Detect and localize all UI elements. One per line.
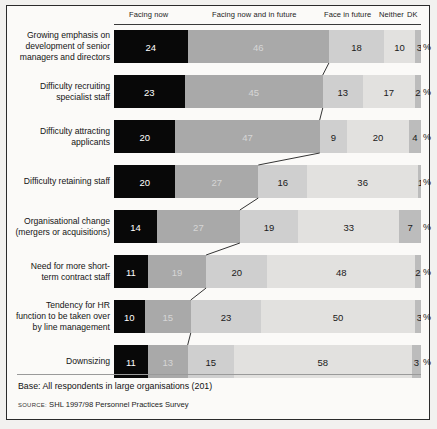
percent-sign: %	[423, 222, 431, 232]
bar-segment-value: 23	[191, 311, 262, 322]
bar-segment-dk: 1	[418, 165, 421, 198]
leader-line	[323, 63, 329, 75]
chart-row: Tendency for HRfunction to be taken over…	[7, 300, 429, 333]
bar-segment-face-in-future: 13	[323, 75, 363, 108]
bar-segment-value: 3	[412, 356, 421, 367]
bar-segment-facing-now: 11	[114, 255, 148, 288]
column-header-face-in-future: Face in future	[324, 10, 371, 19]
bar-segment-value: 3	[415, 41, 421, 52]
bar-segment-value: 3	[415, 311, 421, 322]
percent-sign: %	[423, 87, 431, 97]
column-header-facing-now: Facing now	[129, 10, 168, 19]
bar-segment-facing-now: 14	[114, 210, 157, 243]
bar-segment-value: 11	[114, 266, 148, 277]
bar-segment-value: 4	[409, 131, 421, 142]
bar-segment-value: 58	[234, 356, 412, 367]
row-label: Difficulty recruitingspecialist staff	[7, 81, 110, 103]
bar-segment-value: 20	[206, 266, 267, 277]
bar-segment-facing-now-and-in-future: 47	[175, 120, 319, 153]
leader-line	[206, 243, 240, 255]
bar-segment-facing-now: 20	[114, 165, 175, 198]
bar-segment-face-in-future: 19	[240, 210, 298, 243]
stacked-bar: 244618103	[114, 30, 421, 63]
bar-segment-facing-now: 20	[114, 120, 175, 153]
chart-frame: Facing now Facing now and in future Face…	[6, 5, 430, 420]
bar-segment-value: 1	[418, 176, 421, 187]
bar-segment-value: 13	[148, 356, 188, 367]
bar-segment-value: 23	[114, 86, 185, 97]
stacked-bar: 202716361	[114, 165, 421, 198]
row-label-line: Tendency for HR	[7, 300, 110, 311]
bar-segment-facing-now: 10	[114, 300, 145, 333]
row-label-line: Difficulty recruiting	[7, 81, 110, 92]
row-label-line: Organisational change	[7, 216, 110, 227]
stacked-bar: 101523503	[114, 300, 421, 333]
percent-sign: %	[423, 312, 431, 322]
bar-segment-neither: 10	[384, 30, 415, 63]
leader-line	[258, 153, 319, 165]
bar-segment-value: 7	[399, 221, 420, 232]
bar-segment-value: 20	[347, 131, 408, 142]
column-header-dk: DK	[407, 10, 418, 19]
bar-segment-value: 17	[363, 86, 415, 97]
bar-segment-value: 19	[148, 266, 206, 277]
bar-segment-value: 13	[323, 86, 363, 97]
bar-segment-value: 2	[415, 86, 421, 97]
row-label-line: Difficulty attracting	[7, 126, 110, 137]
bar-segment-value: 2	[415, 266, 421, 277]
bar-segment-facing-now-and-in-future: 27	[175, 165, 258, 198]
percent-sign: %	[423, 177, 431, 187]
bar-segment-value: 10	[114, 311, 145, 322]
bar-segment-neither: 36	[307, 165, 418, 198]
chart-row: Difficulty attractingapplicants20479204%	[7, 120, 429, 153]
bar-segment-value: 20	[114, 176, 175, 187]
column-header-facing-now-and-in-future: Facing now and in future	[212, 10, 297, 19]
source-keyword: SOURCE:	[18, 402, 47, 408]
bar-segment-value: 10	[384, 41, 415, 52]
bar-segment-facing-now-and-in-future: 15	[145, 300, 191, 333]
chart-figure: Facing now Facing now and in future Face…	[0, 0, 437, 429]
percent-sign: %	[423, 42, 431, 52]
bar-segment-value: 19	[240, 221, 298, 232]
bar-segment-value: 11	[114, 356, 148, 367]
bar-segment-value: 27	[157, 221, 240, 232]
bar-segment-neither: 17	[363, 75, 415, 108]
row-label-line: development of senior	[7, 41, 110, 52]
bar-segment-dk: 3	[415, 300, 421, 333]
leader-line	[191, 288, 206, 300]
row-label: Downsizing	[7, 356, 110, 367]
bar-segment-dk: 2	[415, 255, 421, 288]
chart-row: Difficulty recruitingspecialist staff234…	[7, 75, 429, 108]
percent-sign: %	[423, 267, 431, 277]
bar-segment-value: 18	[329, 41, 384, 52]
bar-segment-dk: 4	[409, 120, 421, 153]
chart-row: Need for more short-term contract staff1…	[7, 255, 429, 288]
bar-segment-value: 33	[298, 221, 399, 232]
leader-line	[188, 333, 191, 345]
bar-segment-neither: 20	[347, 120, 408, 153]
bar-segment-face-in-future: 16	[258, 165, 307, 198]
row-label-line: Need for more short-	[7, 261, 110, 272]
footer-divider	[17, 374, 421, 375]
row-label-line: Growing emphasis on	[7, 30, 110, 41]
stacked-bar: 142719337	[114, 210, 421, 243]
stacked-bar: 20479204	[114, 120, 421, 153]
bar-segment-facing-now: 24	[114, 30, 188, 63]
base-note: Base: All respondents in large organisat…	[18, 381, 212, 391]
row-label-line: managers and directors	[7, 52, 110, 63]
bar-segment-facing-now-and-in-future: 19	[148, 255, 206, 288]
row-label-line: specialist staff	[7, 92, 110, 103]
row-label: Difficulty attractingapplicants	[7, 126, 110, 148]
chart-row: Organisational change(mergers or acquisi…	[7, 210, 429, 243]
row-label-line: applicants	[7, 137, 110, 148]
bar-segment-dk: 3	[415, 30, 421, 63]
header-underline	[114, 24, 421, 25]
bar-segment-value: 50	[261, 311, 415, 322]
bar-segment-value: 47	[175, 131, 319, 142]
percent-sign: %	[423, 132, 431, 142]
bar-segment-value: 20	[114, 131, 175, 142]
percent-sign: %	[423, 357, 431, 367]
bar-segment-facing-now-and-in-future: 27	[157, 210, 240, 243]
source-note: SOURCE: SHL 1997/98 Personnel Practices …	[18, 400, 189, 409]
bar-segment-face-in-future: 23	[191, 300, 262, 333]
